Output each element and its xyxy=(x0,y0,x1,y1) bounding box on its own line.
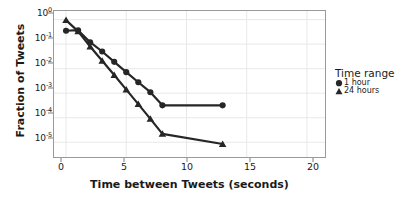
data-point-0-8 xyxy=(159,102,165,108)
series-line-1 xyxy=(66,20,223,144)
data-series-layer xyxy=(54,11,325,157)
chart-figure: Fraction of Tweets 100 10-1 10-2 10-3 10… xyxy=(0,0,409,203)
data-point-0-5 xyxy=(123,69,129,75)
y-tick-exponent-2: -2 xyxy=(46,56,52,64)
y-tick-label-4: 10-4 xyxy=(35,109,52,118)
data-point-0-3 xyxy=(99,48,105,54)
legend: Time range 1 hour 24 hours xyxy=(335,68,409,95)
y-tick-label-1: 10-1 xyxy=(35,34,52,43)
y-tick-label-2: 10-2 xyxy=(35,59,52,68)
y-tick-exponent-5: -5 xyxy=(46,131,52,139)
data-point-0-0 xyxy=(63,28,69,34)
y-tick-label-0: 100 xyxy=(37,9,52,18)
circle-marker-icon xyxy=(335,79,344,87)
y-tick-exponent-0: 0 xyxy=(48,6,52,14)
y-tick-label-3: 10-3 xyxy=(35,84,52,93)
data-point-0-4 xyxy=(111,59,117,65)
x-tick-label-1: 5 xyxy=(121,162,127,172)
triangle-marker-icon xyxy=(335,87,344,95)
x-tick-label-3: 15 xyxy=(244,162,256,172)
data-point-0-9 xyxy=(220,102,226,108)
data-point-1-0 xyxy=(62,17,70,23)
y-tick-exponent-3: -3 xyxy=(46,81,52,89)
y-tick-exponent-1: -1 xyxy=(46,31,52,39)
y-tick-label-5: 10-5 xyxy=(35,134,52,143)
plot-area xyxy=(53,10,326,158)
y-axis-title: Fraction of Tweets xyxy=(14,7,27,155)
x-axis-title: Time between Tweets (seconds) xyxy=(53,178,326,191)
x-tick-label-2: 10 xyxy=(181,162,193,172)
legend-label-24-hours: 24 hours xyxy=(344,87,379,95)
data-point-0-6 xyxy=(135,79,141,85)
y-tick-exponent-4: -4 xyxy=(46,106,52,114)
data-point-0-7 xyxy=(147,89,153,95)
x-tick-label-0: 0 xyxy=(58,162,64,172)
legend-entry-24-hours[interactable]: 24 hours xyxy=(335,87,409,95)
x-tick-label-4: 20 xyxy=(307,162,319,172)
